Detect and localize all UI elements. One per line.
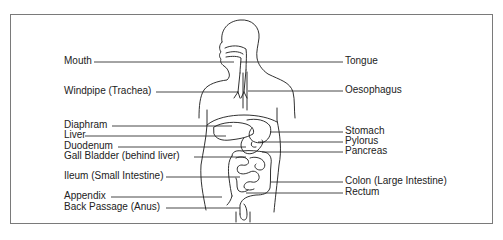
label-windpipe: Windpipe (Trachea) [64,85,151,96]
face-outline [199,42,229,118]
torso-left [201,110,207,210]
label-mouth: Mouth [64,55,92,66]
head-outline [222,20,295,118]
label-anus: Back Passage (Anus) [64,201,160,212]
label-ileum: Ileum (Small Intestine) [64,170,163,181]
label-gall-bladder: Gall Bladder (behind liver) [64,150,180,161]
label-oesophagus: Oesophagus [345,84,402,95]
label-tongue: Tongue [345,55,378,66]
label-colon: Colon (Large Intestine) [345,175,447,186]
label-rectum: Rectum [345,186,379,197]
torso-right [274,108,280,212]
label-appendix: Appendix [64,190,106,201]
label-liver: Liver [64,129,86,140]
label-pancreas: Pancreas [345,145,387,156]
